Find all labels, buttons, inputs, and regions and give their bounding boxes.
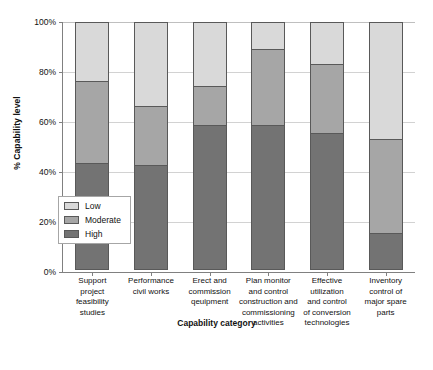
- bar-segment-high[interactable]: [369, 233, 403, 271]
- x-axis-category-label: Supportprojectfeasibilitystudies: [61, 276, 123, 318]
- x-axis-label-line: and control: [237, 287, 299, 298]
- bar-stack[interactable]: [193, 22, 227, 272]
- bar-segment-low[interactable]: [310, 22, 344, 65]
- legend-label: Low: [85, 201, 101, 211]
- legend-label: Moderate: [85, 215, 121, 225]
- bar-segment-moderate[interactable]: [193, 86, 227, 126]
- x-axis-label-line: studies: [61, 308, 123, 319]
- x-axis-label-line: commissioning: [237, 308, 299, 319]
- x-axis-label-line: utilization: [296, 287, 358, 298]
- x-axis-label-line: control of: [355, 287, 417, 298]
- y-axis-tick: [59, 122, 63, 123]
- x-axis-label-line: project: [61, 287, 123, 298]
- x-axis-label-line: Inventory: [355, 276, 417, 287]
- chart-legend: LowModerateHigh: [58, 196, 131, 244]
- gridline: [63, 122, 415, 123]
- y-axis-tick: [59, 272, 63, 273]
- gridline: [63, 72, 415, 73]
- y-axis-tick: [59, 22, 63, 23]
- bar-stack[interactable]: [310, 22, 344, 272]
- x-axis-category-label: Erect andcommissionqeuipment: [179, 276, 241, 308]
- bar-segment-low[interactable]: [251, 22, 285, 50]
- y-axis-title: % Capability level: [12, 78, 22, 188]
- y-axis-tick-label: 40%: [39, 167, 56, 177]
- bar-segment-low[interactable]: [193, 22, 227, 87]
- x-axis-label-line: and control: [296, 297, 358, 308]
- y-axis-tick: [59, 72, 63, 73]
- x-axis-category-label: Inventorycontrol ofmajor spareparts: [355, 276, 417, 318]
- x-axis-label-line: of conversion: [296, 308, 358, 319]
- x-axis-label-line: feasibility: [61, 297, 123, 308]
- bar-segment-moderate[interactable]: [134, 106, 168, 166]
- legend-swatch-icon: [64, 230, 79, 238]
- bar-segment-low[interactable]: [134, 22, 168, 107]
- x-axis-category-label: Performancecivil works: [120, 276, 182, 297]
- chart-figure: % Capability level 0%20%40%60%80%100%Sup…: [0, 0, 433, 370]
- legend-label: High: [85, 229, 102, 239]
- y-axis-tick-label: 60%: [39, 117, 56, 127]
- bar-stack[interactable]: [134, 22, 168, 272]
- x-axis-label-line: construction and: [237, 297, 299, 308]
- x-axis-label-line: civil works: [120, 287, 182, 298]
- legend-item[interactable]: Low: [64, 201, 121, 211]
- y-axis-tick-label: 100%: [34, 17, 56, 27]
- bar-segment-moderate[interactable]: [251, 49, 285, 127]
- bar-stack[interactable]: [369, 22, 403, 272]
- x-axis-label-line: Plan monitor: [237, 276, 299, 287]
- x-axis-label-line: Effective: [296, 276, 358, 287]
- gridline: [63, 172, 415, 173]
- x-axis-label-line: qeuipment: [179, 297, 241, 308]
- legend-swatch-icon: [64, 202, 79, 210]
- x-axis-label-line: major spare: [355, 297, 417, 308]
- gridline: [63, 22, 415, 23]
- bar-segment-low[interactable]: [369, 22, 403, 140]
- y-axis-tick: [59, 172, 63, 173]
- y-axis-tick-label: 80%: [39, 67, 56, 77]
- bar-segment-high[interactable]: [310, 133, 344, 271]
- bar-segment-low[interactable]: [75, 22, 109, 82]
- bar-segment-moderate[interactable]: [369, 139, 403, 234]
- legend-item[interactable]: Moderate: [64, 215, 121, 225]
- bar-segment-moderate[interactable]: [75, 81, 109, 164]
- x-axis-label-line: parts: [355, 308, 417, 319]
- bar-segment-high[interactable]: [193, 125, 227, 270]
- y-axis-tick-label: 0%: [44, 267, 56, 277]
- bar-stack[interactable]: [251, 22, 285, 272]
- x-axis-label-line: Performance: [120, 276, 182, 287]
- y-axis-tick-label: 20%: [39, 217, 56, 227]
- legend-item[interactable]: High: [64, 229, 121, 239]
- x-axis-label-line: commission: [179, 287, 241, 298]
- bar-segment-moderate[interactable]: [310, 64, 344, 134]
- x-axis-title: Capability category: [0, 318, 433, 328]
- x-axis-label-line: Support: [61, 276, 123, 287]
- x-axis-label-line: Erect and: [179, 276, 241, 287]
- bar-segment-high[interactable]: [251, 125, 285, 270]
- legend-swatch-icon: [64, 216, 79, 224]
- bar-segment-high[interactable]: [134, 165, 168, 270]
